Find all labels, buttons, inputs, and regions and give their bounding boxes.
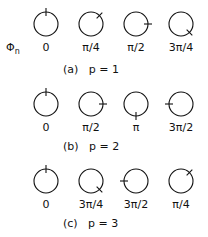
phase-label: 3π/2 — [116, 199, 156, 211]
phase-label: π/4 — [161, 199, 201, 211]
phi-n-symbol: Φn — [6, 42, 20, 58]
phase-label: 0 — [26, 122, 66, 134]
phase-label: 3π/4 — [71, 199, 111, 211]
phase-label: π/4 — [71, 42, 111, 54]
phase-label: 0 — [26, 42, 66, 54]
row-caption: (c) p = 3 — [63, 218, 118, 230]
phase-label: 3π/2 — [161, 122, 201, 134]
phase-label: 3π/4 — [161, 42, 201, 54]
row-caption: (a) p = 1 — [63, 64, 119, 76]
phase-label: π/2 — [116, 42, 156, 54]
phase-label: π/2 — [71, 122, 111, 134]
phase-label: 0 — [26, 199, 66, 211]
row-caption: (b) p = 2 — [63, 141, 119, 153]
phase-label: π — [116, 122, 156, 134]
